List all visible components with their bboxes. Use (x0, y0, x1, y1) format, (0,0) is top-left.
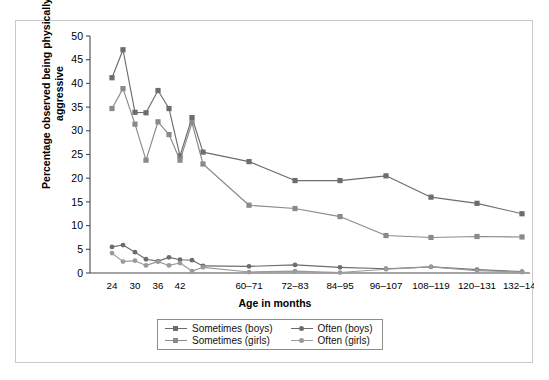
marker-often-girls-9 (247, 270, 252, 275)
marker-sometimes-girls-1 (120, 86, 125, 91)
series-line-often-boys (112, 245, 522, 272)
line-chart-plot: 051015202530354045502430364260–7172–8384… (16, 21, 534, 364)
y-tick-label-50: 50 (71, 30, 83, 42)
x-tick-label-2: 36 (153, 280, 164, 291)
marker-sometimes-girls-9 (246, 203, 251, 208)
marker-often-girls-15 (520, 270, 525, 275)
marker-sometimes-girls-3 (143, 158, 148, 163)
legend-item-sometimes-girls[interactable]: Sometimes (girls) (165, 335, 273, 346)
marker-often-boys-0 (110, 245, 115, 250)
marker-often-girls-10 (293, 269, 298, 274)
marker-often-girls-8 (201, 265, 206, 270)
marker-often-girls-7 (190, 269, 195, 274)
marker-sometimes-girls-7 (189, 120, 194, 125)
x-tick-label-3: 42 (175, 280, 186, 291)
figure-container: Percentage observed being physically agg… (0, 0, 549, 380)
marker-sometimes-girls-0 (109, 106, 114, 111)
marker-often-boys-2 (133, 250, 138, 255)
marker-sometimes-boys-12 (383, 173, 388, 178)
legend-label: Sometimes (girls) (192, 335, 270, 346)
legend-key-symbol (173, 338, 178, 343)
marker-sometimes-girls-10 (292, 206, 297, 211)
series-often-girls (110, 251, 525, 275)
marker-often-girls-6 (178, 261, 183, 266)
y-tick-label-15: 15 (71, 196, 83, 208)
marker-sometimes-boys-3 (143, 110, 148, 115)
marker-sometimes-girls-14 (474, 234, 479, 239)
legend-label: Sometimes (boys) (192, 323, 273, 334)
marker-often-girls-3 (144, 263, 149, 268)
x-tick-label-7: 96–107 (370, 280, 403, 291)
marker-sometimes-girls-12 (383, 233, 388, 238)
x-tick-label-4: 60–71 (235, 280, 262, 291)
y-tick-label-5: 5 (77, 243, 83, 255)
marker-sometimes-boys-13 (428, 195, 433, 200)
marker-sometimes-girls-13 (428, 235, 433, 240)
series-sometimes-boys (109, 47, 524, 216)
series-line-sometimes-boys (112, 50, 522, 214)
x-tick-label-0: 24 (107, 280, 118, 291)
legend-label: Often (boys) (318, 323, 373, 334)
marker-often-girls-13 (429, 264, 434, 269)
x-tick-label-10: 132–143 (503, 280, 534, 291)
marker-sometimes-boys-10 (292, 178, 297, 183)
marker-sometimes-boys-11 (337, 178, 342, 183)
y-tick-label-30: 30 (71, 124, 83, 136)
legend-key-symbol (173, 326, 178, 331)
marker-sometimes-boys-4 (155, 88, 160, 93)
marker-often-girls-5 (167, 263, 172, 268)
x-tick-label-1: 30 (130, 280, 141, 291)
legend-key-symbol (299, 338, 304, 343)
marker-often-boys-7 (190, 258, 195, 263)
marker-sometimes-boys-15 (519, 211, 524, 216)
legend-marker-circle-icon (291, 336, 313, 346)
x-tick-label-9: 120–131 (458, 280, 496, 291)
chart-frame: Percentage observed being physically agg… (15, 20, 533, 363)
chart-legend: Sometimes (boys)Often (boys)Sometimes (g… (157, 319, 383, 350)
legend-marker-square-icon (165, 336, 187, 346)
marker-often-boys-11 (338, 265, 343, 270)
y-tick-label-10: 10 (71, 219, 83, 231)
marker-often-boys-3 (144, 257, 149, 262)
series-sometimes-girls (109, 86, 524, 240)
y-tick-label-40: 40 (71, 77, 83, 89)
x-tick-label-6: 84–95 (326, 280, 354, 291)
marker-often-boys-5 (167, 255, 172, 260)
marker-often-girls-14 (475, 268, 480, 273)
marker-often-girls-0 (110, 251, 115, 256)
marker-sometimes-boys-14 (474, 201, 479, 206)
marker-sometimes-girls-15 (519, 234, 524, 239)
y-tick-label-35: 35 (71, 101, 83, 113)
marker-sometimes-girls-8 (200, 161, 205, 166)
marker-sometimes-girls-11 (337, 214, 342, 219)
marker-sometimes-girls-6 (177, 158, 182, 163)
x-axis-title: Age in months (16, 297, 534, 309)
legend-item-sometimes-boys[interactable]: Sometimes (boys) (165, 323, 273, 334)
legend-marker-circle-icon (291, 324, 313, 334)
marker-often-girls-11 (338, 270, 343, 275)
legend-key-symbol (299, 326, 304, 331)
marker-sometimes-boys-5 (166, 106, 171, 111)
marker-often-boys-10 (293, 263, 298, 268)
x-tick-label-8: 108–119 (412, 280, 449, 291)
marker-sometimes-boys-0 (109, 75, 114, 80)
marker-sometimes-girls-5 (166, 132, 171, 137)
marker-sometimes-boys-7 (189, 115, 194, 120)
legend-label: Often (girls) (318, 335, 370, 346)
y-tick-label-45: 45 (71, 53, 83, 65)
marker-sometimes-girls-2 (132, 122, 137, 127)
series-line-sometimes-girls (112, 89, 522, 238)
marker-often-girls-2 (133, 258, 138, 263)
marker-sometimes-girls-4 (155, 119, 160, 124)
y-tick-label-20: 20 (71, 172, 83, 184)
marker-often-boys-1 (121, 243, 126, 248)
legend-item-often-boys[interactable]: Often (boys) (291, 323, 373, 334)
series-line-often-girls (112, 253, 522, 272)
y-tick-label-0: 0 (77, 267, 83, 279)
legend-marker-square-icon (165, 324, 187, 334)
marker-sometimes-boys-9 (246, 159, 251, 164)
legend-grid: Sometimes (boys)Often (boys)Sometimes (g… (165, 323, 373, 346)
y-tick-label-25: 25 (71, 148, 83, 160)
marker-sometimes-boys-8 (200, 150, 205, 155)
legend-item-often-girls[interactable]: Often (girls) (291, 335, 373, 346)
